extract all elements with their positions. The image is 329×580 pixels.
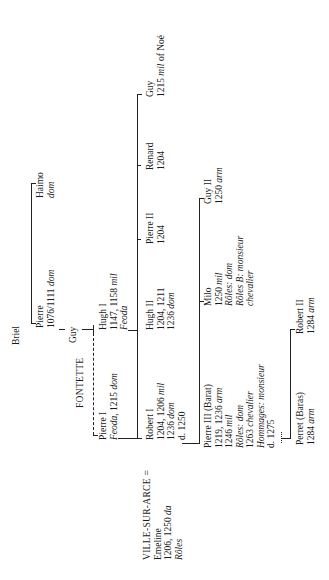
- label-fontette: FONTETTE: [75, 358, 86, 408]
- label: FONTETTE: [75, 358, 86, 408]
- tick-renard: [137, 165, 141, 166]
- line-pierre-guy: [59, 329, 65, 330]
- name: Robert I: [145, 383, 156, 440]
- tick-pierre2: [137, 239, 141, 240]
- detail-1: 1204, 1211: [156, 288, 167, 330]
- detail-1: 1204: [156, 143, 167, 170]
- note: Feoda: [119, 273, 130, 330]
- node-pierre2: Pierre II 1204: [145, 213, 166, 244]
- line-robert1-bracket: [199, 198, 200, 444]
- name: Briel: [11, 326, 22, 345]
- node-milo: Milo 1250 mil Rôles: dom Rôles B: monsie…: [203, 236, 256, 306]
- node-ville-sur-arce: VILLE-SUR-ARCE = Emeline 1206, 1250 da R…: [142, 470, 184, 560]
- line-robert1-children: [182, 443, 200, 444]
- name: Robert II: [295, 297, 306, 334]
- line-pierre1-robert1: [118, 438, 138, 439]
- detail-5: Hommages: monsieur: [256, 364, 267, 448]
- detail: 1076/1111 dom: [46, 270, 57, 328]
- name: Guy: [68, 327, 79, 343]
- name: Haimo: [35, 172, 46, 198]
- name: Guy: [145, 35, 156, 97]
- detail-1: 1204: [156, 213, 167, 244]
- detail: 1147, 1158 mil: [109, 273, 120, 330]
- node-guy2: Guy II 1250 arm: [203, 167, 224, 204]
- detail-3: Rôles B: monsieur: [235, 236, 246, 306]
- name: Hugh II: [145, 288, 156, 330]
- line-hugh1-hugh2: [128, 330, 137, 331]
- detail-1: 1219, 1236 arm: [214, 364, 225, 448]
- detail-4: 1263 chevalier: [245, 364, 256, 448]
- detail-1: 1215 mil of Noé: [156, 35, 167, 97]
- detail-4: chevalier: [245, 236, 256, 306]
- node-renard: Renard 1204: [145, 143, 166, 170]
- detail-1: 1284 arm: [306, 392, 317, 445]
- detail-1: 1250 mil: [214, 236, 225, 306]
- tick-robert1: [137, 438, 142, 439]
- node-perret: Perret (Baras) 1284 arm: [295, 392, 316, 445]
- node-pierre-root: Pierre 1076/1111 dom: [35, 270, 56, 328]
- name: Guy II: [203, 167, 214, 204]
- name: Hugh I: [98, 273, 109, 330]
- name: Pierre I: [98, 373, 109, 440]
- node-hugh1: Hugh I 1147, 1158 mil Feoda: [98, 273, 130, 330]
- node-pierre1: Pierre I Feoda, 1215 dom: [98, 373, 119, 440]
- line-briel-children: [31, 183, 32, 324]
- label: VILLE-SUR-ARCE =: [142, 470, 153, 560]
- detail-6: d. 1275: [266, 364, 277, 448]
- detail-2: 1236 dom: [166, 288, 177, 330]
- detail-2: 1246 mil: [224, 364, 235, 448]
- name: Milo: [203, 236, 214, 306]
- dashed-line-fontette: [93, 333, 94, 435]
- tick-hugh1: [93, 325, 94, 333]
- detail: Feoda, 1215 dom: [109, 373, 120, 440]
- node-guy-noe: Guy 1215 mil of Noé: [145, 35, 166, 97]
- node-hugh2: Hugh II 1204, 1211 1236 dom: [145, 288, 177, 330]
- node-guy-gen2: Guy: [68, 327, 79, 343]
- name: Perret (Baras): [295, 392, 306, 445]
- spouse-detail: 1206, 1250 da: [163, 470, 174, 560]
- spouse-name: Emeline: [153, 470, 164, 560]
- name: Renard: [145, 143, 156, 170]
- detail-1: 1204, 1206 mil: [156, 383, 167, 440]
- detail-2: 1236 dom: [166, 383, 177, 440]
- tick-guy-noe: [137, 94, 142, 95]
- node-briel: Briel: [11, 326, 22, 345]
- genealogy-diagram: Briel Pierre 1076/1111 dom Haimo dom Guy…: [0, 0, 329, 580]
- node-haimo: Haimo dom: [35, 172, 56, 198]
- spouse-note: Rôles: [174, 470, 185, 560]
- line-pierre3-bracket: [290, 329, 291, 439]
- name: Pierre II: [145, 213, 156, 244]
- name: Pierre: [35, 270, 46, 328]
- detail-3: d. 1250: [177, 383, 188, 440]
- detail-1: 1284 arm: [306, 297, 317, 334]
- name: Pierre III (Barat): [203, 364, 214, 448]
- detail-1: 1250 arm: [214, 167, 225, 204]
- line-main-bracket: [137, 94, 138, 439]
- node-robert2: Robert II 1284 arm: [295, 297, 316, 334]
- detail: dom: [46, 172, 57, 198]
- detail-2: Rôles: dom: [224, 236, 235, 306]
- detail-3: Rôles: dom: [235, 364, 246, 448]
- node-robert1: Robert I 1204, 1206 mil 1236 dom d. 1250: [145, 383, 187, 440]
- node-pierre3: Pierre III (Barat) 1219, 1236 arm 1246 m…: [203, 364, 277, 448]
